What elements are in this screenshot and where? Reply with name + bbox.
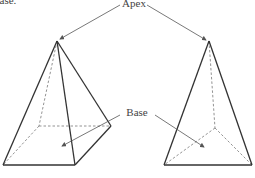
apex-label: Apex [122, 0, 146, 9]
base-arrow-left [62, 115, 120, 146]
pyramid-diagram: base. Apex Base [0, 0, 255, 178]
apex-arrow-right [147, 5, 206, 40]
base-arrow-right [155, 115, 204, 147]
apex-arrow-left [60, 5, 120, 39]
square-pyramid [3, 41, 111, 165]
triangular-pyramid [164, 41, 252, 165]
base-label: Base [126, 106, 148, 118]
caption-fragment: base. [0, 0, 17, 6]
